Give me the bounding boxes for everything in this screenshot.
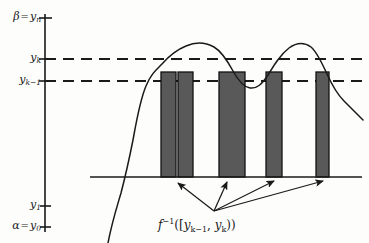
preimage-bar	[161, 72, 176, 177]
diagram-canvas	[0, 0, 369, 243]
preimage-bar	[266, 72, 282, 177]
arrow-group	[178, 181, 323, 211]
yk-subscript: k	[36, 56, 41, 65]
preimage-bar	[316, 72, 329, 177]
arrow-to-bar-1	[178, 183, 214, 211]
inverse-exponent: −1	[162, 217, 174, 226]
arrow-to-bar-2	[214, 182, 227, 211]
y0-subscript: 0	[36, 224, 41, 233]
preimage-bars	[161, 72, 329, 177]
yn-subscript: n	[36, 15, 41, 24]
axis-label-alpha-y0: α=y0	[12, 220, 41, 231]
preimage-formula-label: f−1([yk−1, yk))	[158, 219, 236, 231]
lower-bound-subscript: k−1	[190, 225, 207, 234]
upper-bound-subscript: k	[221, 225, 226, 234]
arrow-to-bar-4	[214, 181, 323, 211]
axis-label-y1: y1	[30, 199, 41, 210]
interval-comma: ,	[207, 218, 215, 232]
figure-container: β=yn yk yk−1 y1 α=y0 f−1([yk−1, yk))	[0, 0, 369, 243]
alpha-equals: =	[20, 220, 30, 231]
preimage-bar	[178, 72, 193, 177]
beta-equals: =	[20, 11, 30, 22]
y1-subscript: 1	[36, 203, 41, 212]
ykm1-subscript: k−1	[25, 78, 41, 87]
axis-label-yk-minus-1: yk−1	[19, 74, 41, 85]
close-paren: )	[231, 218, 236, 232]
alpha-symbol: α	[12, 219, 19, 232]
axis-label-yk: yk	[30, 52, 41, 63]
arrow-to-bar-3	[214, 181, 274, 211]
preimage-bar	[219, 72, 245, 177]
axis-label-beta-yn: β=yn	[13, 11, 41, 22]
beta-symbol: β	[13, 10, 19, 23]
